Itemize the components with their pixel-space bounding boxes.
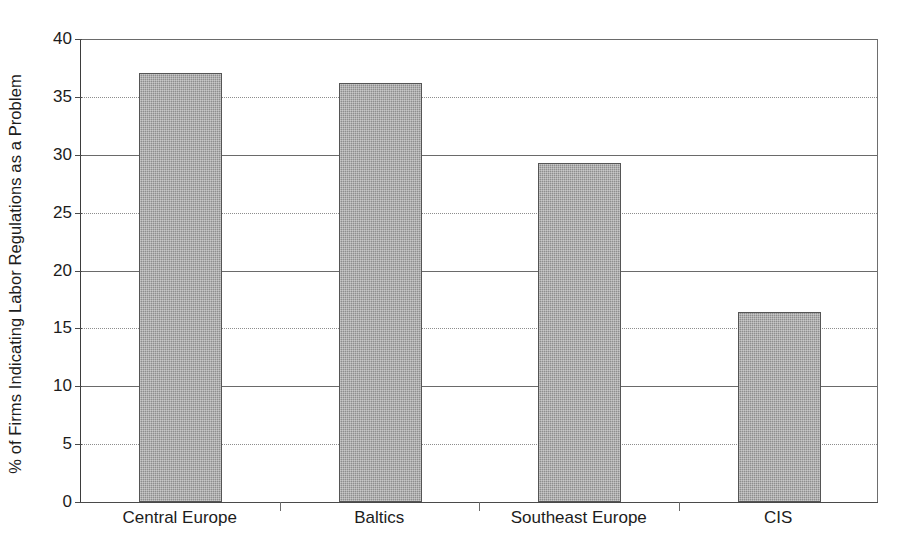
y-axis-tick-label: 35 bbox=[12, 87, 72, 107]
x-axis-category-label: Southeast Europe bbox=[479, 508, 679, 528]
y-axis-tick-mark bbox=[75, 328, 82, 329]
y-axis-tick-mark bbox=[75, 444, 82, 445]
x-axis-category-label: CIS bbox=[679, 508, 879, 528]
y-axis-tick-mark bbox=[75, 155, 82, 156]
y-axis-tick-label: 30 bbox=[12, 145, 72, 165]
x-axis-category-label: Central Europe bbox=[80, 508, 280, 528]
bar bbox=[139, 73, 222, 502]
y-axis-tick-mark bbox=[75, 39, 82, 40]
y-axis-tick-labels: 0510152025303540 bbox=[8, 0, 72, 548]
y-axis-tick-mark bbox=[75, 97, 82, 98]
y-axis-tick-mark bbox=[75, 386, 82, 387]
bar-chart: % of Firms Indicating Labor Regulations … bbox=[0, 0, 906, 548]
y-axis-tick-label: 20 bbox=[12, 261, 72, 281]
y-axis-tick-mark bbox=[75, 271, 82, 272]
bar bbox=[538, 163, 621, 502]
bar bbox=[339, 83, 422, 502]
y-axis-tick-label: 40 bbox=[12, 29, 72, 49]
y-axis-tick-label: 25 bbox=[12, 203, 72, 223]
gridline bbox=[81, 39, 877, 40]
y-axis-tick-label: 15 bbox=[12, 318, 72, 338]
y-axis-tick-label: 10 bbox=[12, 376, 72, 396]
x-axis-category-label: Baltics bbox=[280, 508, 480, 528]
y-axis-tick-label: 5 bbox=[12, 434, 72, 454]
bar bbox=[738, 312, 821, 502]
plot-area bbox=[80, 39, 878, 502]
y-axis-tick-label: 0 bbox=[12, 492, 72, 512]
y-axis-tick-mark bbox=[75, 213, 82, 214]
